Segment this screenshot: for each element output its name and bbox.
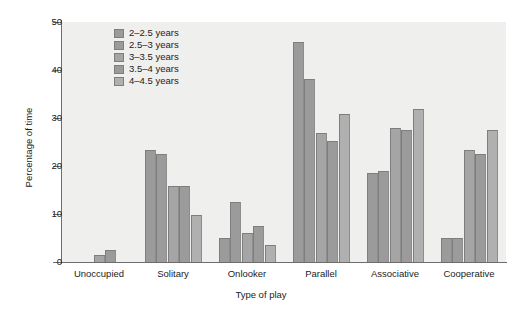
- bar: [367, 173, 378, 262]
- x-tick-label: Associative: [358, 268, 432, 279]
- bar: [413, 109, 424, 262]
- bar: [304, 79, 315, 262]
- x-tick-label: Onlooker: [210, 268, 284, 279]
- bar: [168, 186, 179, 262]
- bar-group: [367, 22, 424, 262]
- bar: [242, 233, 253, 262]
- bar: [156, 154, 167, 262]
- x-axis-line: [61, 262, 507, 263]
- bar: [179, 186, 190, 262]
- x-tick-label: Unoccupied: [62, 268, 136, 279]
- legend-label: 2.5–3 years: [129, 40, 179, 50]
- y-axis-title: Percentage of time: [23, 68, 34, 228]
- legend: 2–2.5 years2.5–3 years3–3.5 years3.5–4 y…: [114, 28, 179, 86]
- legend-swatch: [114, 29, 124, 38]
- y-tick-label: 50: [16, 17, 62, 27]
- bar: [452, 238, 463, 262]
- legend-item: 4–4.5 years: [114, 76, 179, 86]
- bar-group: [293, 22, 350, 262]
- legend-swatch: [114, 65, 124, 74]
- legend-item: 2.5–3 years: [114, 40, 179, 50]
- bar-chart: 01020304050 Percentage of time Unoccupie…: [0, 0, 522, 316]
- legend-item: 3.5–4 years: [114, 64, 179, 74]
- bar: [378, 171, 389, 262]
- bar-group: [441, 22, 498, 262]
- legend-label: 3–3.5 years: [129, 52, 179, 62]
- bar: [191, 215, 202, 262]
- legend-item: 3–3.5 years: [114, 52, 179, 62]
- legend-item: 2–2.5 years: [114, 28, 179, 38]
- legend-swatch: [114, 41, 124, 50]
- legend-swatch: [114, 77, 124, 86]
- x-tick-label: Cooperative: [432, 268, 506, 279]
- bar: [105, 250, 116, 262]
- legend-label: 4–4.5 years: [129, 76, 179, 86]
- x-axis-title: Type of play: [0, 289, 522, 300]
- bar: [293, 42, 304, 262]
- x-tick-label: Solitary: [136, 268, 210, 279]
- bar: [253, 226, 264, 262]
- bar: [316, 133, 327, 262]
- bar: [475, 154, 486, 262]
- bar: [339, 114, 350, 262]
- bar: [441, 238, 452, 262]
- bar: [94, 255, 105, 262]
- bar: [487, 130, 498, 262]
- bar: [464, 150, 475, 262]
- bar-group: [219, 22, 276, 262]
- legend-swatch: [114, 53, 124, 62]
- bar: [145, 150, 156, 262]
- bar: [265, 245, 276, 262]
- legend-label: 3.5–4 years: [129, 64, 179, 74]
- legend-label: 2–2.5 years: [129, 28, 179, 38]
- bar: [390, 128, 401, 262]
- bar: [327, 141, 338, 262]
- bar: [219, 238, 230, 262]
- bar: [230, 202, 241, 262]
- bar: [401, 130, 412, 262]
- y-tick-label: 0: [16, 257, 62, 267]
- x-tick-label: Parallel: [284, 268, 358, 279]
